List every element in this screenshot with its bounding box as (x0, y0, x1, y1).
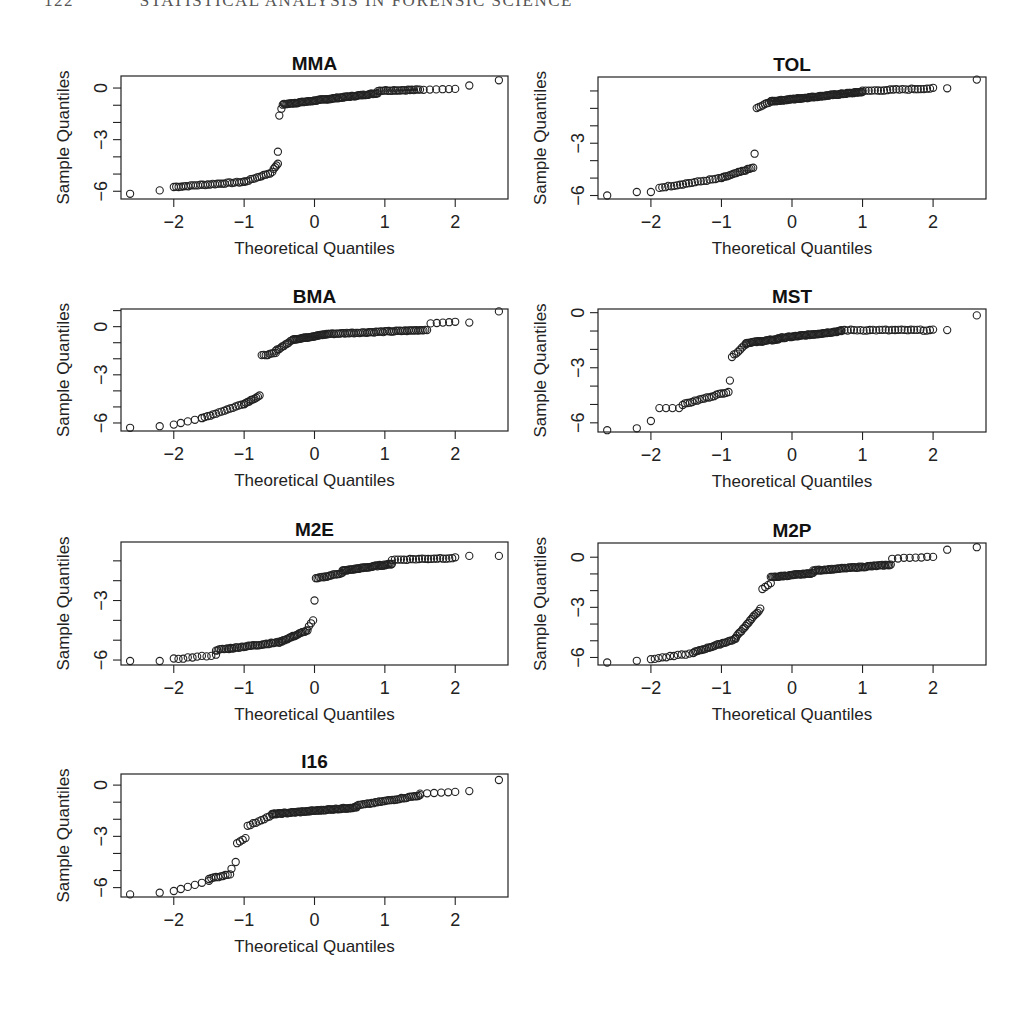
x-tick-label: −2 (164, 444, 185, 464)
qq-plot-figure: MMA−2−1012Theoretical Quantiles0−3−6Samp… (0, 0, 1028, 1010)
y-tick-label: −6 (91, 877, 111, 898)
x-tick-label: −2 (641, 445, 662, 465)
x-tick-label: −2 (164, 212, 185, 232)
qq-point (198, 879, 205, 886)
x-tick-label: −1 (234, 910, 255, 930)
y-axis-label: Sample Quantiles (54, 768, 73, 902)
y-tick-label: −3 (568, 133, 588, 154)
qq-panel-m2p: M2P−2−1012Theoretical Quantiles0−3−6Samp… (531, 520, 986, 724)
x-axis-label: Theoretical Quantiles (712, 239, 873, 258)
y-tick-label: 0 (568, 308, 588, 318)
x-tick-label: 0 (787, 212, 797, 232)
x-tick-label: 0 (309, 678, 319, 698)
qq-point (944, 85, 951, 92)
x-tick-label: −1 (234, 212, 255, 232)
x-tick-label: 1 (380, 212, 390, 232)
qq-point (445, 789, 452, 796)
y-tick-label: −6 (568, 647, 588, 668)
y-tick-label: −6 (91, 413, 111, 434)
x-axis-label: Theoretical Quantiles (234, 705, 395, 724)
y-axis-label: Sample Quantiles (531, 71, 550, 205)
x-tick-label: −2 (164, 910, 185, 930)
x-tick-label: −1 (234, 678, 255, 698)
x-tick-label: −1 (234, 444, 255, 464)
qq-panel-i16: I16−2−1012Theoretical Quantiles0−3−6Samp… (54, 751, 508, 956)
panel-title: MMA (292, 53, 338, 74)
x-tick-label: 0 (787, 678, 797, 698)
qq-point (452, 788, 459, 795)
x-tick-label: 2 (450, 678, 460, 698)
qq-point (495, 776, 502, 783)
qq-point (466, 82, 473, 89)
qq-point (633, 188, 640, 195)
y-tick-label: 0 (91, 780, 111, 790)
qq-point (944, 327, 951, 334)
qq-point (751, 150, 758, 157)
x-tick-label: 1 (380, 444, 390, 464)
x-tick-label: 2 (928, 678, 938, 698)
qq-point (156, 657, 163, 664)
panel-title: M2E (295, 519, 334, 540)
x-tick-label: 0 (787, 445, 797, 465)
y-tick-label: 0 (91, 322, 111, 332)
x-tick-label: 1 (380, 678, 390, 698)
qq-point (633, 657, 640, 664)
x-tick-label: 2 (928, 445, 938, 465)
x-axis-label: Theoretical Quantiles (712, 705, 873, 724)
y-tick-label: 0 (91, 83, 111, 93)
x-axis-label: Theoretical Quantiles (712, 472, 873, 491)
qq-point (184, 883, 191, 890)
x-tick-label: −2 (164, 678, 185, 698)
qq-point (276, 112, 283, 119)
panel-title: TOL (773, 54, 811, 75)
qq-panel-mst: MST−2−1012Theoretical Quantiles0−3−6Samp… (531, 286, 986, 491)
x-tick-label: 1 (858, 212, 868, 232)
panel-title: MST (772, 286, 813, 307)
y-axis-label: Sample Quantiles (531, 303, 550, 437)
x-tick-label: 0 (309, 212, 319, 232)
data-points (604, 312, 981, 434)
qq-panel-bma: BMA−2−1012Theoretical Quantiles0−3−6Samp… (54, 286, 508, 490)
qq-point (466, 319, 473, 326)
qq-point (191, 881, 198, 888)
x-tick-label: 1 (380, 910, 390, 930)
qq-panel-tol: TOL−2−1012Theoretical Quantiles−3−6Sampl… (531, 54, 986, 258)
x-axis-label: Theoretical Quantiles (234, 239, 395, 258)
qq-point (973, 544, 980, 551)
qq-point (274, 148, 281, 155)
qq-point (232, 858, 239, 865)
data-points (604, 544, 981, 667)
y-axis-label: Sample Quantiles (54, 303, 73, 437)
data-points (604, 76, 981, 199)
y-tick-label: −6 (91, 650, 111, 671)
qq-point (156, 889, 163, 896)
data-points (127, 77, 503, 198)
qq-point (737, 346, 744, 353)
x-tick-label: 0 (309, 444, 319, 464)
qq-point (466, 552, 473, 559)
qq-point (424, 790, 431, 797)
qq-panel-mma: MMA−2−1012Theoretical Quantiles0−3−6Samp… (54, 53, 508, 258)
panel-title: BMA (293, 286, 337, 307)
y-tick-label: −3 (91, 129, 111, 150)
data-points (127, 552, 503, 664)
plot-frame (121, 309, 508, 431)
y-axis-label: Sample Quantiles (54, 70, 73, 204)
qq-point (647, 188, 654, 195)
x-tick-label: 2 (928, 212, 938, 232)
qq-point (156, 423, 163, 430)
qq-point (604, 427, 611, 434)
x-tick-label: −2 (641, 212, 662, 232)
qq-point (647, 417, 654, 424)
qq-point (466, 788, 473, 795)
x-tick-label: −1 (711, 445, 732, 465)
panel-title: I16 (301, 751, 327, 772)
x-tick-label: 2 (450, 444, 460, 464)
qq-point (177, 419, 184, 426)
qq-point (726, 377, 733, 384)
x-axis-label: Theoretical Quantiles (234, 937, 395, 956)
y-tick-label: −3 (91, 826, 111, 847)
plot-frame (598, 543, 986, 665)
y-axis-label: Sample Quantiles (531, 537, 550, 671)
y-tick-label: −3 (568, 357, 588, 378)
